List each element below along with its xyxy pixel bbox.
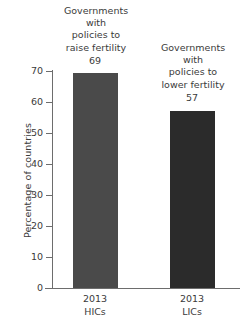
annotation-hic-line-3: policies to [54,29,138,41]
x-tick-label-hic-group: HICs [60,305,130,318]
y-tick-label-50: 50 [21,128,43,138]
y-tick-30: 30 [0,195,52,196]
y-tick-label-20: 20 [21,221,43,231]
y-tick-20: 20 [0,226,52,227]
y-tick-50: 50 [0,133,52,134]
y-tick-40: 40 [0,164,52,165]
y-tick-label-0: 0 [21,283,43,293]
y-tick-70: 70 [0,71,52,72]
annotation-hic-line-2: with [54,17,138,29]
annotation-hic-line-1: Governments [54,5,138,17]
x-tick-label-lic-group: LICs [157,305,227,318]
bar-chart: Percentage of countries 70 60 50 40 30 2… [0,0,247,325]
annotation-lic-line-2: with [151,54,235,66]
annotation-lic: Governments with policies to lower ferti… [151,42,235,91]
y-tick-label-70: 70 [21,66,43,76]
x-tick-label-hic: 2013 HICs [60,292,130,318]
annotation-lic-line-1: Governments [151,42,235,54]
y-axis-title: Percentage of countries [22,101,33,261]
bar-hic[interactable] [73,73,118,288]
annotation-lic-line-3: policies to [151,66,235,78]
y-tick-label-60: 60 [21,97,43,107]
annotation-lic-line-4: lower fertility [151,79,235,91]
annotation-hic-line-4: raise fertility [54,42,138,54]
y-tick-60: 60 [0,102,52,103]
x-tick-label-lic: 2013 LICs [157,292,227,318]
annotation-hic: Governments with policies to raise ferti… [54,5,138,54]
bar-value-hic: 69 [65,56,125,66]
y-tick-label-30: 30 [21,190,43,200]
x-tick-label-lic-year: 2013 [157,292,227,305]
y-tick-label-40: 40 [21,159,43,169]
y-tick-10: 10 [0,257,52,258]
x-tick-label-hic-year: 2013 [60,292,130,305]
x-axis-line [45,288,240,289]
y-tick-label-10: 10 [21,252,43,262]
bar-value-lic: 57 [162,93,222,103]
y-axis-line [52,70,53,289]
bar-lic[interactable] [170,111,215,288]
